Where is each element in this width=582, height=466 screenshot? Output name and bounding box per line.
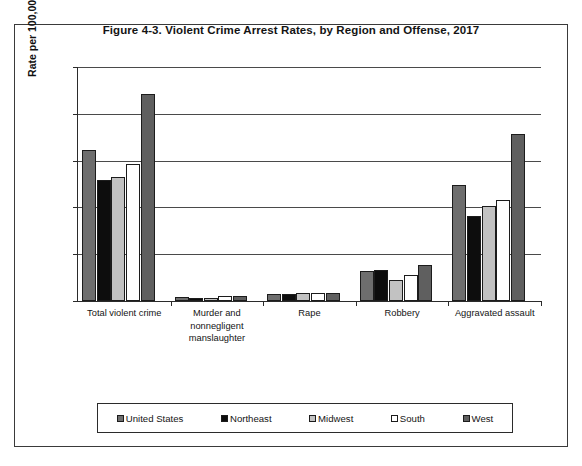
bar <box>418 265 432 301</box>
legend-swatch-icon <box>221 415 228 422</box>
legend-label: Northeast <box>230 413 272 424</box>
bar <box>326 293 340 301</box>
chart-title: Figure 4-3. Violent Crime Arrest Rates, … <box>0 24 582 36</box>
legend-entry: Midwest <box>309 413 353 424</box>
bar-group <box>263 67 356 301</box>
legend-swatch-icon <box>309 415 316 422</box>
legend-entry: South <box>391 413 425 424</box>
x-category-label: Aggravated assault <box>434 307 555 320</box>
bar <box>267 294 281 301</box>
bar <box>511 134 525 301</box>
bar <box>452 185 466 301</box>
bar <box>126 164 140 301</box>
bar <box>482 206 496 301</box>
bar <box>311 293 325 301</box>
x-tick-mark <box>263 301 264 306</box>
legend-label: Midwest <box>318 413 353 424</box>
legend-entry: West <box>463 413 494 424</box>
legend-swatch-icon <box>391 415 398 422</box>
legend-label: United States <box>126 413 184 424</box>
legend-swatch-icon <box>117 415 124 422</box>
x-tick-mark <box>448 301 449 306</box>
bar <box>175 297 189 301</box>
x-tick-mark <box>171 301 172 306</box>
bar <box>467 216 481 301</box>
plot-area: 050100150200250 Total violent crimeMurde… <box>77 67 541 302</box>
bar-group <box>448 67 541 301</box>
bar <box>82 150 96 301</box>
bar <box>233 296 247 301</box>
bar <box>360 271 374 301</box>
legend-label: West <box>472 413 494 424</box>
bar <box>282 294 296 301</box>
bar <box>218 296 232 301</box>
bar <box>204 298 218 301</box>
legend-swatch-icon <box>463 415 470 422</box>
bar <box>404 275 418 301</box>
y-axis-title: Rate per 100,000 inhabitants <box>26 0 38 96</box>
y-tick-mark <box>73 301 78 302</box>
legend-label: South <box>400 413 425 424</box>
bar <box>141 94 155 301</box>
chart-legend: United StatesNortheastMidwestSouthWest <box>97 403 513 433</box>
x-category-label-line: manslaughter <box>157 332 278 345</box>
bar-group <box>356 67 449 301</box>
x-category-label-line: Aggravated assault <box>434 307 555 320</box>
bar <box>496 200 510 301</box>
bar-group <box>171 67 264 301</box>
bar-group <box>78 67 171 301</box>
bar <box>296 293 310 301</box>
legend-entry: Northeast <box>221 413 272 424</box>
bar <box>389 280 403 301</box>
x-tick-mark <box>356 301 357 306</box>
bar <box>111 177 125 301</box>
x-tick-mark <box>541 301 542 306</box>
bar <box>97 180 111 301</box>
legend-entry: United States <box>117 413 184 424</box>
bar <box>189 298 203 301</box>
bar <box>374 270 388 301</box>
x-category-label-line: nonnegligent <box>157 320 278 333</box>
